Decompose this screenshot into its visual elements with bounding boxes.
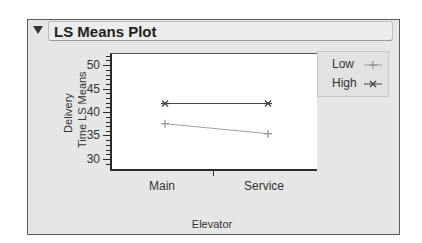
triangle-down-icon[interactable] <box>33 26 43 34</box>
x-axis-label: Elevator <box>192 218 232 230</box>
ls-means-lines <box>112 54 319 172</box>
panel-header: LS Means Plot <box>27 19 400 43</box>
x-tick-label-service: Service <box>244 179 284 193</box>
legend: Low High <box>317 51 389 97</box>
x-marker-icon <box>363 79 383 89</box>
y-tick-label: 35 <box>76 128 100 142</box>
plus-marker-icon <box>363 60 383 70</box>
x-tick-label-main: Main <box>149 179 175 193</box>
panel-title-bar[interactable]: LS Means Plot <box>48 21 393 41</box>
series-high <box>161 101 272 107</box>
y-axis-label-line1: Delivery <box>62 78 74 148</box>
legend-item-high[interactable]: High <box>332 76 383 90</box>
y-tick-label: 40 <box>76 105 100 119</box>
y-tick-label: 50 <box>76 58 100 72</box>
series-low <box>161 120 272 138</box>
legend-label-low: Low <box>332 57 360 71</box>
panel-title: LS Means Plot <box>54 23 157 40</box>
legend-item-low[interactable]: Low <box>332 57 383 71</box>
plot-area[interactable] <box>110 53 317 171</box>
y-tick-label: 45 <box>76 82 100 96</box>
y-tick-label: 30 <box>76 152 100 166</box>
legend-label-high: High <box>332 76 360 90</box>
